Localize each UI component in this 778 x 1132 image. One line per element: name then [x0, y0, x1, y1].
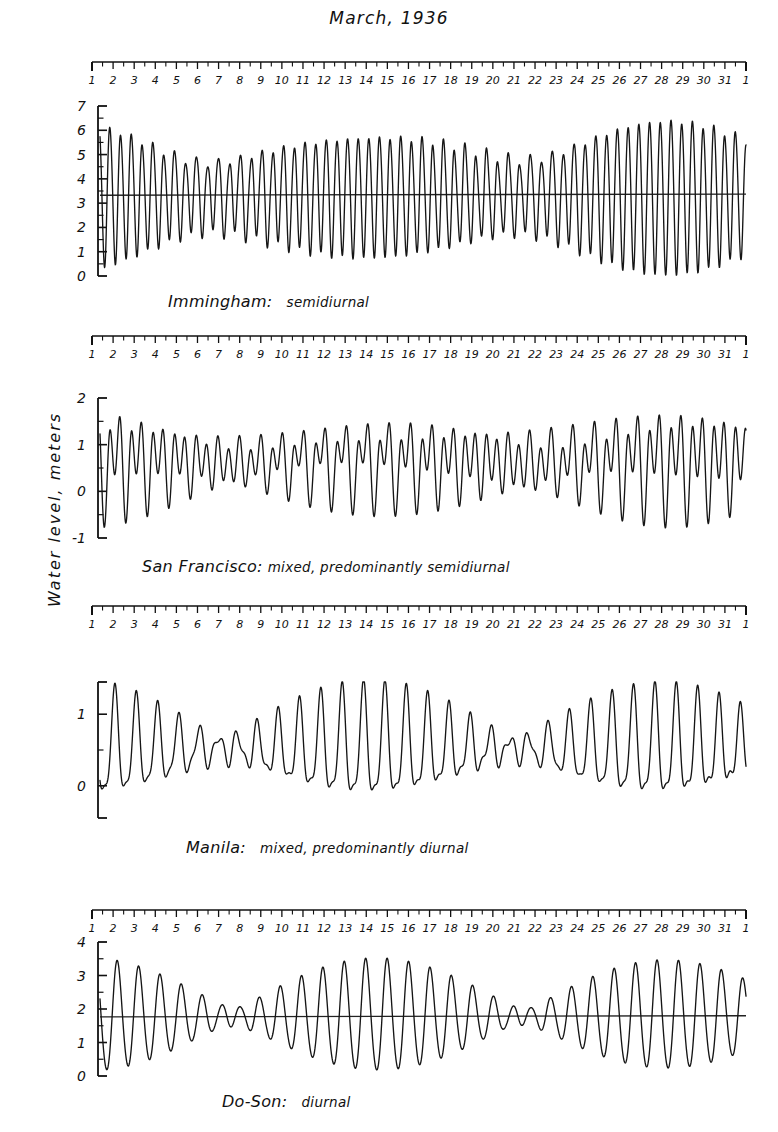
svg-text:21: 21: [507, 348, 521, 361]
svg-text:3: 3: [131, 922, 138, 935]
svg-text:30: 30: [697, 618, 711, 631]
svg-text:1: 1: [77, 706, 86, 722]
svg-text:27: 27: [634, 618, 648, 631]
svg-text:15: 15: [380, 618, 394, 631]
svg-text:29: 29: [676, 74, 690, 87]
svg-text:14: 14: [359, 348, 373, 361]
svg-text:5: 5: [173, 348, 180, 361]
svg-text:3: 3: [131, 74, 138, 87]
caption-kind-san-francisco: mixed, predominantly semidiurnal: [268, 559, 510, 575]
svg-text:22: 22: [528, 922, 542, 935]
svg-text:19: 19: [465, 348, 479, 361]
svg-text:18: 18: [444, 74, 458, 87]
svg-text:0: 0: [77, 268, 86, 284]
svg-text:16: 16: [401, 922, 415, 935]
svg-text:3: 3: [131, 348, 138, 361]
svg-text:13: 13: [338, 618, 352, 631]
svg-text:21: 21: [507, 922, 521, 935]
svg-text:25: 25: [591, 618, 605, 631]
svg-text:8: 8: [236, 348, 243, 361]
svg-text:27: 27: [634, 74, 648, 87]
svg-text:8: 8: [236, 922, 243, 935]
svg-text:6: 6: [194, 74, 201, 87]
svg-text:22: 22: [528, 618, 542, 631]
svg-text:16: 16: [401, 74, 415, 87]
svg-text:21: 21: [507, 74, 521, 87]
svg-text:23: 23: [549, 618, 563, 631]
svg-text:19: 19: [465, 922, 479, 935]
svg-text:18: 18: [444, 922, 458, 935]
svg-text:6: 6: [194, 618, 201, 631]
svg-text:25: 25: [591, 348, 605, 361]
svg-text:18: 18: [444, 348, 458, 361]
svg-text:8: 8: [236, 618, 243, 631]
day-scale-immingham: 1234567891011121314151617181920212223242…: [88, 52, 750, 92]
svg-text:23: 23: [549, 348, 563, 361]
svg-text:24: 24: [570, 922, 584, 935]
svg-text:21: 21: [507, 618, 521, 631]
svg-text:17: 17: [423, 348, 437, 361]
svg-text:7: 7: [215, 348, 222, 361]
svg-text:9: 9: [257, 74, 264, 87]
svg-text:26: 26: [612, 348, 626, 361]
svg-text:7: 7: [215, 74, 222, 87]
svg-text:26: 26: [612, 922, 626, 935]
svg-text:29: 29: [676, 618, 690, 631]
svg-text:13: 13: [338, 922, 352, 935]
svg-text:17: 17: [423, 618, 437, 631]
panel-manila: 10: [52, 676, 752, 824]
svg-text:25: 25: [591, 922, 605, 935]
svg-text:15: 15: [380, 348, 394, 361]
svg-text:24: 24: [570, 618, 584, 631]
caption-do-son: Do-Son:diurnal: [222, 1092, 351, 1111]
svg-text:10: 10: [275, 618, 289, 631]
svg-text:31: 31: [718, 74, 732, 87]
caption-kind-do-son: diurnal: [301, 1094, 350, 1110]
svg-text:1: 1: [77, 437, 86, 453]
caption-place-do-son: Do-Son:: [222, 1092, 287, 1111]
svg-text:10: 10: [275, 348, 289, 361]
day-scale-san-francisco: 1234567891011121314151617181920212223242…: [88, 326, 750, 366]
svg-text:14: 14: [359, 922, 373, 935]
svg-text:13: 13: [338, 74, 352, 87]
svg-text:16: 16: [401, 348, 415, 361]
svg-text:1: 1: [89, 348, 96, 361]
svg-text:29: 29: [676, 348, 690, 361]
svg-text:31: 31: [718, 618, 732, 631]
svg-text:22: 22: [528, 74, 542, 87]
svg-text:9: 9: [257, 922, 264, 935]
svg-text:4: 4: [77, 171, 86, 187]
caption-place-immingham: Immingham:: [168, 292, 273, 311]
svg-text:2: 2: [77, 219, 86, 235]
svg-text:20: 20: [486, 922, 500, 935]
svg-text:1: 1: [743, 922, 750, 935]
svg-text:28: 28: [655, 74, 669, 87]
svg-text:15: 15: [380, 74, 394, 87]
svg-text:8: 8: [236, 74, 243, 87]
svg-text:0: 0: [77, 1068, 86, 1084]
svg-text:7: 7: [215, 922, 222, 935]
svg-text:1: 1: [77, 1035, 86, 1051]
svg-text:4: 4: [77, 934, 86, 950]
svg-text:9: 9: [257, 618, 264, 631]
svg-text:20: 20: [486, 348, 500, 361]
svg-text:11: 11: [296, 922, 310, 935]
svg-text:11: 11: [296, 348, 310, 361]
svg-text:28: 28: [655, 348, 669, 361]
caption-place-san-francisco: San Francisco:: [142, 557, 263, 576]
svg-text:7: 7: [215, 618, 222, 631]
svg-text:10: 10: [275, 74, 289, 87]
svg-text:30: 30: [697, 348, 711, 361]
svg-text:19: 19: [465, 618, 479, 631]
svg-text:3: 3: [77, 195, 86, 211]
svg-text:2: 2: [110, 74, 117, 87]
svg-text:5: 5: [173, 618, 180, 631]
svg-text:15: 15: [380, 922, 394, 935]
figure-title: March, 1936: [0, 8, 778, 28]
svg-text:23: 23: [549, 74, 563, 87]
svg-text:17: 17: [423, 74, 437, 87]
svg-text:5: 5: [77, 147, 86, 163]
svg-text:31: 31: [718, 348, 732, 361]
svg-text:28: 28: [655, 922, 669, 935]
day-scale-manila: 1234567891011121314151617181920212223242…: [88, 596, 750, 636]
